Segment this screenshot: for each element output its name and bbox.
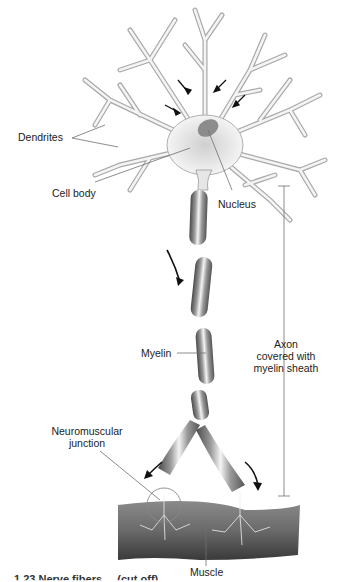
axon-myelin <box>158 190 245 492</box>
label-muscle: Muscle <box>190 566 223 578</box>
label-nmj-line2: junction <box>46 437 128 449</box>
label-axon-line1: Axon <box>253 338 319 350</box>
muscle-fiber <box>118 501 300 560</box>
label-axon-line2: covered with <box>253 350 319 362</box>
label-nmj-line1: Neuromuscular <box>46 425 128 437</box>
label-neuromuscular-junction: Neuromuscular junction <box>46 425 128 449</box>
neuron-illustration <box>0 0 339 582</box>
dendrites-leader <box>72 125 118 147</box>
label-cell-body: Cell body <box>52 187 96 199</box>
label-myelin: Myelin <box>141 347 171 359</box>
label-axon-line3: myelin sheath <box>253 362 319 374</box>
label-dendrites: Dendrites <box>18 131 63 143</box>
label-nucleus: Nucleus <box>218 198 256 210</box>
label-axon: Axon covered with myelin sheath <box>253 338 319 374</box>
cell-body-leader <box>95 148 190 182</box>
